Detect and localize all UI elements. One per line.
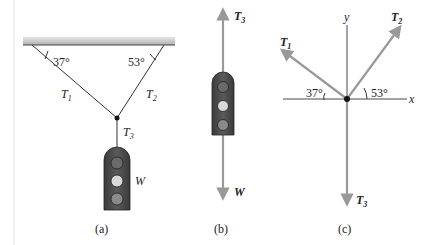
- t3-label: T3: [356, 193, 367, 209]
- angle-53-label: 53°: [371, 86, 388, 100]
- lamp-top: [218, 82, 229, 93]
- panel-c: x y 37° 53° T1 T2 T3 (c): [280, 10, 415, 236]
- caption-c: (c): [338, 222, 351, 236]
- free-body-diagram-figure: 37° 53° T1 T2 T3 W (a) T3 W (b) x y: [0, 0, 423, 245]
- traffic-light-b: [212, 72, 234, 135]
- ceiling: [23, 37, 175, 45]
- lamp-middle: [111, 175, 123, 187]
- panel-a: 37° 53° T1 T2 T3 W (a): [23, 37, 175, 236]
- t1-label: T1: [280, 35, 291, 51]
- angle-37-label: 37°: [306, 86, 323, 100]
- t1-label: T1: [61, 87, 72, 103]
- x-axis-label: x: [408, 92, 415, 106]
- angle-53-label: 53°: [128, 55, 145, 69]
- angle-arc-53: [364, 88, 367, 99]
- t3-up-label: T3: [234, 9, 245, 25]
- caption-b: (b): [214, 222, 228, 236]
- cable-t1: [32, 45, 117, 118]
- lamp-middle: [218, 101, 229, 112]
- t3-label: T3: [123, 125, 134, 141]
- y-axis-label: y: [343, 10, 350, 24]
- t2-label: T2: [146, 87, 157, 103]
- panel-b: T3 W (b): [212, 9, 246, 236]
- origin-point: [344, 96, 350, 102]
- lamp-bottom: [111, 193, 123, 205]
- traffic-light-a: [104, 147, 130, 210]
- weight-label: W: [135, 174, 146, 188]
- lamp-bottom: [218, 120, 229, 131]
- caption-a: (a): [95, 222, 108, 236]
- knot: [115, 116, 120, 121]
- t2-label: T2: [391, 10, 402, 26]
- angle-arc-53: [150, 54, 156, 60]
- w-down-label: W: [234, 185, 246, 199]
- angle-37-label: 37°: [53, 55, 70, 69]
- lamp-top: [111, 157, 123, 169]
